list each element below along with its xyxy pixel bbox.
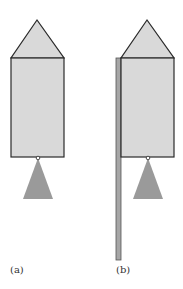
- rocket-a-nose-cone: [11, 20, 64, 58]
- rocket-b-exhaust-flame: [133, 158, 163, 199]
- panel-b-label: (b): [116, 264, 130, 275]
- rocket-b: [116, 20, 174, 260]
- panel-a-label: (a): [10, 264, 24, 275]
- rocket-a-body: [11, 58, 64, 157]
- rocket-a-nozzle-point: [36, 156, 40, 160]
- rocket-b-nozzle-point: [146, 156, 150, 160]
- figure-canvas: [0, 0, 183, 289]
- rocket-a: [11, 20, 64, 199]
- rocket-a-exhaust-flame: [23, 158, 53, 199]
- rocket-b-guide-rod: [116, 58, 121, 260]
- rocket-b-body: [121, 58, 174, 157]
- rocket-b-nose-cone: [121, 20, 174, 58]
